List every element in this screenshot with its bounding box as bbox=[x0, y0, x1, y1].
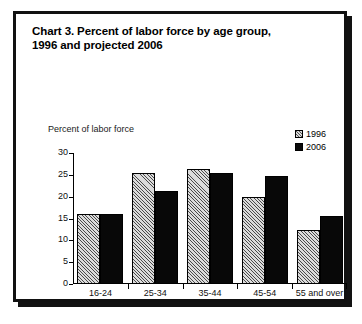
bar-group-25-34: 25-34 bbox=[128, 153, 183, 284]
x-tick-label: 35-44 bbox=[183, 288, 238, 298]
legend-item-1996: 1996 bbox=[295, 127, 326, 140]
bar-1996-25-34 bbox=[132, 173, 155, 284]
y-tick-label: 30 bbox=[58, 147, 68, 157]
x-tick-label: 16-24 bbox=[73, 288, 128, 298]
legend-swatch-2006 bbox=[295, 143, 303, 151]
bar-1996-16-24 bbox=[77, 214, 100, 284]
y-tick-label: 15 bbox=[58, 213, 68, 223]
bar-2006-45-54 bbox=[265, 176, 288, 284]
bar-group-55-and-over: 55 and over bbox=[292, 153, 347, 284]
bar-2006-55-and-over bbox=[320, 216, 343, 284]
bar-1996-45-54 bbox=[242, 197, 265, 284]
bar-2006-16-24 bbox=[100, 214, 123, 284]
legend-item-2006: 2006 bbox=[295, 140, 326, 153]
y-tick-label: 25 bbox=[58, 169, 68, 179]
y-tick-label: 0 bbox=[63, 278, 68, 288]
y-tick-mark bbox=[69, 284, 73, 285]
bar-group-16-24: 16-24 bbox=[73, 153, 128, 284]
y-tick-label: 10 bbox=[58, 234, 68, 244]
x-tick-label: 55 and over bbox=[292, 288, 347, 298]
legend-label-1996: 1996 bbox=[306, 129, 326, 139]
x-tick-label: 25-34 bbox=[128, 288, 183, 298]
bar-1996-55-and-over bbox=[297, 230, 320, 284]
y-tick-label: 5 bbox=[63, 256, 68, 266]
plot-area: 051015202530 16-2425-3435-4445-5455 and … bbox=[73, 153, 347, 284]
y-tick-label: 20 bbox=[58, 191, 68, 201]
bar-group-45-54: 45-54 bbox=[237, 153, 292, 284]
bar-1996-35-44 bbox=[187, 169, 210, 284]
chart-figure-frame: Chart 3. Percent of labor force by age g… bbox=[13, 11, 347, 302]
y-axis-title: Percent of labor force bbox=[48, 124, 134, 134]
chart-legend: 1996 2006 bbox=[295, 127, 326, 153]
chart-title-line-2: 1996 and projected 2006 bbox=[32, 38, 332, 52]
legend-label-2006: 2006 bbox=[306, 142, 326, 152]
chart-title-line-1: Chart 3. Percent of labor force by age g… bbox=[32, 25, 271, 37]
legend-swatch-1996 bbox=[295, 130, 303, 138]
bar-2006-25-34 bbox=[155, 191, 178, 284]
x-tick-label: 45-54 bbox=[237, 288, 292, 298]
bar-2006-35-44 bbox=[210, 173, 233, 284]
chart-title: Chart 3. Percent of labor force by age g… bbox=[32, 24, 332, 52]
bar-group-35-44: 35-44 bbox=[183, 153, 238, 284]
